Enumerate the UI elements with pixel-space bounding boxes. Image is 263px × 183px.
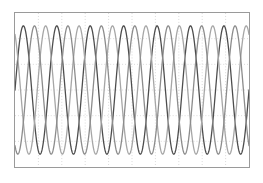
- chart-screenshot: [0, 0, 263, 183]
- plot-frame: [14, 12, 250, 168]
- grid-layer: [15, 13, 249, 167]
